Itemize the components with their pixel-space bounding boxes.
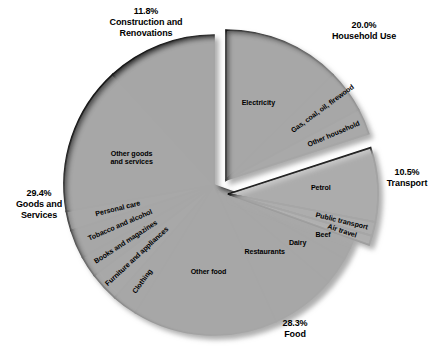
slice-label: Restaurants bbox=[244, 248, 285, 256]
group-label-transport: 10.5% Transport bbox=[378, 167, 436, 189]
slice-label: Dairy bbox=[289, 239, 307, 247]
slice-label: Petrol bbox=[311, 184, 331, 192]
slice-label: Electricity bbox=[242, 98, 275, 106]
group-label-construction: 11.8% Construction and Renovations bbox=[76, 6, 216, 39]
pie-chart-figure: ElectricityGas, coal, oil, firewoodOther… bbox=[0, 0, 436, 348]
pie-chart-svg: ElectricityGas, coal, oil, firewoodOther… bbox=[0, 0, 436, 348]
group-label-household-use: 20.0% Household Use bbox=[304, 20, 424, 42]
slice-label: Other food bbox=[191, 268, 227, 276]
slice-label: Other goodsand services bbox=[110, 149, 152, 165]
group-label-food: 28.3% Food bbox=[250, 318, 340, 340]
slice-label: Beef bbox=[315, 231, 331, 239]
group-label-goods-services: 29.4% Goods and Services bbox=[2, 188, 76, 221]
